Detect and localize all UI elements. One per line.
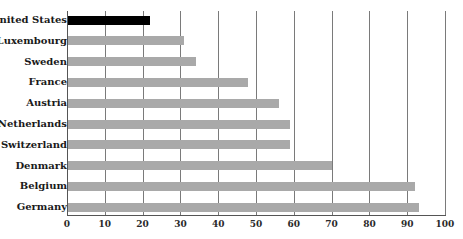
category-label: United States [0,14,67,26]
bar [68,78,248,87]
bar [68,161,332,170]
bar [68,120,290,129]
bar [68,140,290,149]
bar [68,203,419,212]
category-label: Austria [26,97,67,109]
category-label: Germany [17,201,67,213]
category-label: Belgium [20,180,67,192]
x-tick-label: 40 [203,219,233,229]
bar [68,182,415,191]
x-tick-label: 20 [128,219,158,229]
category-label: Denmark [15,160,67,172]
x-tick-label: 10 [90,219,120,229]
x-tick-label: 100 [430,219,460,229]
category-label: Netherlands [0,118,67,130]
x-tick-label: 30 [165,219,195,229]
horizontal-bar-chart: 0102030405060708090100United StatesLuxem… [0,0,463,239]
x-tick-label: 80 [354,219,384,229]
gridline [445,11,446,215]
x-tick-label: 90 [392,219,422,229]
x-tick-label: 70 [317,219,347,229]
y-axis-line [67,11,68,215]
bar [68,36,184,45]
x-tick-label: 50 [241,219,271,229]
category-label: France [29,76,67,88]
category-label: Switzerland [1,139,67,151]
highlighted-bar [68,16,150,25]
x-tick-label: 60 [279,219,309,229]
bar [68,99,279,108]
x-axis-line [67,215,446,216]
bar [68,57,196,66]
category-label: Sweden [24,56,67,68]
x-tick-label: 0 [52,219,82,229]
category-label: Luxembourg [0,35,67,47]
